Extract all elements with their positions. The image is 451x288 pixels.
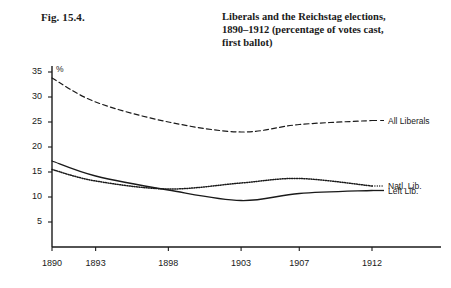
figure-root: Fig. 15.4. Liberals and the Reichstag el…	[0, 0, 451, 288]
x-tick-label-1912: 1912	[352, 259, 392, 268]
y-tick-label-15: 15	[16, 167, 42, 176]
series-label-left-lib: Left Lib.	[388, 187, 418, 196]
x-tick-label-1898: 1898	[148, 259, 188, 268]
series-line-natl-lib	[52, 170, 372, 190]
x-tick-label-1890: 1890	[32, 259, 72, 268]
y-tick-label-20: 20	[16, 142, 42, 151]
axes	[52, 66, 441, 247]
y-tick-label-30: 30	[16, 92, 42, 101]
series-label-all-liberals: All Liberals	[388, 117, 430, 126]
series-paths	[52, 78, 384, 201]
y-tick-label-25: 25	[16, 117, 42, 126]
y-tick-label-5: 5	[16, 217, 42, 226]
x-tick-label-1903: 1903	[221, 259, 261, 268]
y-tick-label-10: 10	[16, 192, 42, 201]
y-tick-label-35: 35	[16, 67, 42, 76]
x-tick-label-1907: 1907	[279, 259, 319, 268]
x-tick-label-1893: 1893	[76, 259, 116, 268]
series-line-all-liberals	[52, 78, 372, 132]
chart-plot	[0, 0, 451, 288]
